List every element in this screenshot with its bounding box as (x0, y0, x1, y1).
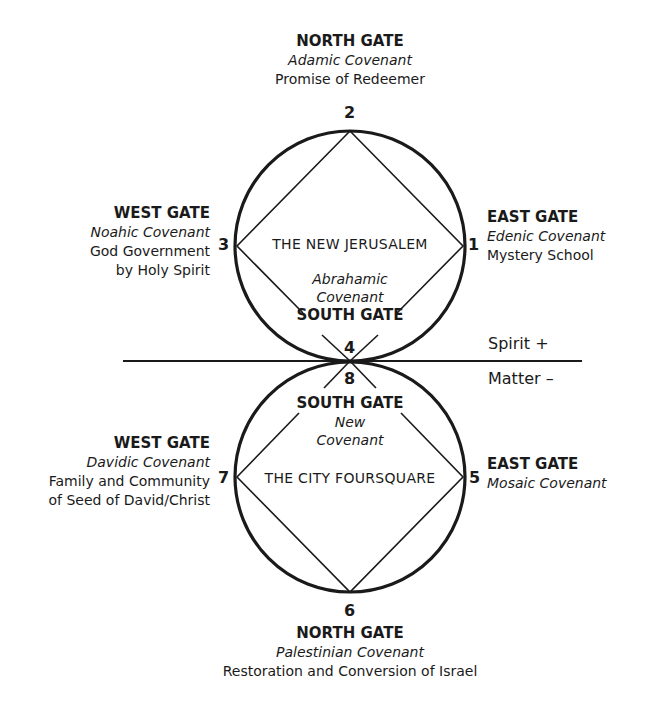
gate-title: WEST GATE (10, 434, 210, 453)
upper-east-gate-label: EAST GATE Edenic Covenant Mystery School (487, 208, 657, 265)
upper-west-gate-label: WEST GATE Noahic Covenant God Government… (40, 204, 210, 280)
upper-north-gate-label: NORTH GATE Adamic Covenant Promise of Re… (250, 32, 450, 89)
gate-title: EAST GATE (487, 208, 657, 227)
spirit-label: Spirit + (488, 334, 549, 353)
gate-description: Mystery School (487, 246, 657, 265)
matter-label: Matter – (488, 369, 554, 388)
covenant-name-line1: New (270, 413, 430, 431)
upper-city-name: THE NEW JERUSALEM (254, 236, 446, 252)
covenant-name: Adamic Covenant (250, 51, 450, 70)
covenant-name: Edenic Covenant (487, 227, 657, 246)
gate-number-1: 1 (468, 236, 479, 254)
covenant-name: Davidic Covenant (10, 453, 210, 472)
lower-east-gate-label: EAST GATE Mosaic Covenant (487, 455, 657, 493)
gate-description: Promise of Redeemer (250, 70, 450, 89)
diagram-shapes (0, 0, 657, 714)
upper-south-gate-label: Abrahamic Covenant SOUTH GATE (270, 270, 430, 325)
gate-number-5: 5 (469, 469, 480, 487)
gate-description: Restoration and Conversion of Israel (150, 662, 550, 681)
covenant-name: Palestinian Covenant (150, 643, 550, 662)
gate-title: SOUTH GATE (270, 394, 430, 413)
lower-west-gate-label: WEST GATE Davidic Covenant Family and Co… (10, 434, 210, 510)
gate-number-8: 8 (344, 370, 355, 388)
gate-description: Family and Community (10, 472, 210, 491)
gate-number-4: 4 (344, 339, 355, 357)
covenant-name-line2: Covenant (270, 288, 430, 306)
gate-number-3: 3 (218, 236, 229, 254)
gate-title: NORTH GATE (150, 624, 550, 643)
gate-description: by Holy Spirit (40, 261, 210, 280)
gate-title: NORTH GATE (250, 32, 450, 51)
gate-title: WEST GATE (40, 204, 210, 223)
covenant-name-line1: Abrahamic (270, 270, 430, 288)
covenant-name-line2: Covenant (270, 431, 430, 449)
gate-number-6: 6 (344, 602, 355, 620)
covenant-name: Noahic Covenant (40, 223, 210, 242)
gate-description: of Seed of David/Christ (10, 491, 210, 510)
lower-south-gate-label: SOUTH GATE New Covenant (270, 394, 430, 449)
gate-number-7: 7 (218, 469, 229, 487)
lower-north-gate-label: NORTH GATE Palestinian Covenant Restorat… (150, 624, 550, 681)
gate-title: SOUTH GATE (270, 306, 430, 325)
gate-number-2: 2 (344, 104, 355, 122)
covenant-name: Mosaic Covenant (487, 474, 657, 493)
gate-title: EAST GATE (487, 455, 657, 474)
gate-description: God Government (40, 242, 210, 261)
lower-city-name: THE CITY FOURSQUARE (244, 470, 456, 486)
